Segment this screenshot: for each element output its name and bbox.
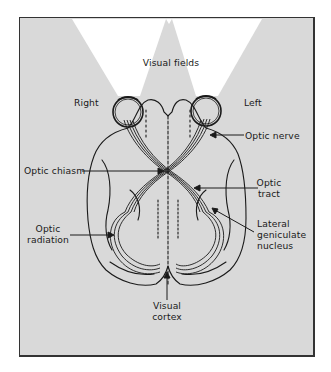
visual-fields-label: Visual fields — [138, 57, 204, 68]
optic-nerve-label: Optic nerve — [245, 130, 300, 141]
lateral-geniculate-nucleus-label: Lateral geniculate nucleus — [257, 218, 306, 251]
brain-outline — [87, 100, 246, 286]
optic-radiation-label: Optic radiation — [24, 223, 72, 245]
optic-chiasm-label: Optic chiasm — [24, 165, 85, 176]
right-label: Right — [74, 97, 99, 108]
lgn-leader — [215, 210, 254, 232]
left-label: Left — [244, 97, 262, 108]
visual-cortex-label: Visual cortex — [148, 300, 186, 322]
optic-tract-label: Optic tract — [254, 177, 284, 199]
